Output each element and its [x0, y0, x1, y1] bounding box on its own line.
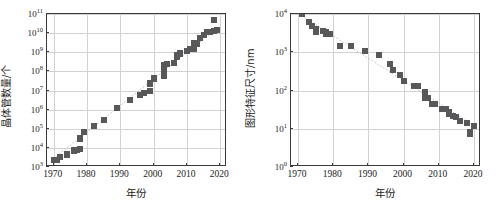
y-tick-label: 101: [259, 122, 287, 134]
gridline-vertical: [87, 14, 88, 165]
data-point: [141, 90, 147, 96]
y-tick-mark: [46, 147, 49, 148]
y-tick-mark: [46, 128, 49, 129]
gridline-vertical: [298, 14, 299, 165]
data-point: [299, 13, 305, 17]
y-tick-mark: [46, 13, 49, 14]
data-point: [327, 31, 333, 37]
data-point: [337, 43, 343, 49]
y-tick-mark: [290, 166, 293, 167]
x-tick-mark: [153, 163, 154, 166]
data-point: [161, 68, 167, 74]
gridline-horizontal: [291, 91, 479, 92]
data-point: [171, 60, 177, 66]
data-point: [114, 105, 120, 111]
gridline-horizontal: [47, 52, 225, 53]
y-tick-mark: [290, 51, 293, 52]
data-point: [362, 48, 368, 54]
trendline: [291, 14, 479, 165]
gridline-horizontal: [291, 14, 479, 15]
x-tick-mark: [438, 163, 439, 166]
data-point: [348, 43, 354, 49]
plot-area-transistor-count: [46, 13, 226, 166]
y-tick-label: 109: [15, 45, 43, 57]
chart-panel-feature-size: 197019801990200020102020100101102103104 …: [249, 0, 499, 208]
gridline-vertical: [154, 14, 155, 165]
dual-chart-figure: 1970198019902000201020201031041051061071…: [0, 0, 499, 208]
data-point: [77, 135, 83, 141]
data-point: [77, 146, 83, 152]
x-tick-mark: [53, 163, 54, 166]
gridline-horizontal: [47, 91, 225, 92]
y-axis-title-left: 晶体管数量/个: [0, 64, 13, 127]
data-point: [467, 129, 473, 135]
x-tick-mark: [403, 163, 404, 166]
y-tick-mark: [46, 109, 49, 110]
x-tick-mark: [119, 163, 120, 166]
x-tick-mark: [367, 163, 368, 166]
y-tick-mark: [290, 90, 293, 91]
data-point: [191, 46, 197, 52]
gridline-vertical: [120, 14, 121, 165]
y-tick-mark: [290, 13, 293, 14]
x-tick-label: 1980: [312, 169, 352, 179]
gridline-horizontal: [47, 71, 225, 72]
x-tick-label: 2010: [418, 169, 458, 179]
data-point: [457, 118, 463, 124]
gridline-horizontal: [47, 14, 225, 15]
data-point: [211, 17, 217, 23]
y-tick-label: 1010: [15, 26, 43, 38]
y-tick-label: 104: [15, 141, 43, 153]
chart-panel-transistor-count: 1970198019902000201020201031041051061071…: [0, 0, 249, 208]
y-tick-label: 106: [15, 103, 43, 115]
y-tick-label: 108: [15, 64, 43, 76]
data-point: [101, 117, 107, 123]
x-tick-mark: [297, 163, 298, 166]
data-point: [390, 67, 396, 73]
x-tick-mark: [219, 163, 220, 166]
gridline-vertical: [474, 14, 475, 165]
data-point: [177, 50, 183, 56]
y-tick-mark: [46, 51, 49, 52]
data-point: [57, 154, 63, 160]
data-point: [401, 78, 407, 84]
gridline-horizontal: [291, 52, 479, 53]
y-tick-label: 104: [259, 7, 287, 19]
data-point: [81, 129, 87, 135]
y-tick-label: 103: [15, 160, 43, 172]
data-point: [415, 83, 421, 89]
y-tick-label: 103: [259, 45, 287, 57]
data-point: [161, 73, 167, 79]
x-tick-label: 1990: [347, 169, 387, 179]
data-point: [376, 52, 382, 58]
x-axis-title-right: 年份: [290, 185, 480, 200]
data-point: [127, 97, 133, 103]
gridline-vertical: [404, 14, 405, 165]
x-tick-mark: [86, 163, 87, 166]
y-tick-mark: [46, 70, 49, 71]
data-point: [464, 120, 470, 126]
data-point: [91, 123, 97, 129]
gridline-vertical: [333, 14, 334, 165]
y-tick-mark: [46, 32, 49, 33]
gridline-vertical: [220, 14, 221, 165]
data-point: [64, 151, 70, 157]
data-point: [432, 101, 438, 107]
data-point: [147, 88, 153, 94]
y-tick-label: 102: [259, 84, 287, 96]
gridline-vertical: [439, 14, 440, 165]
x-tick-label: 2020: [199, 169, 239, 179]
data-point: [425, 95, 431, 101]
y-tick-label: 1011: [15, 7, 43, 19]
y-axis-title-right: 图形特征尺寸/nm: [242, 48, 257, 127]
y-tick-label: 100: [259, 160, 287, 172]
x-tick-label: 2000: [383, 169, 423, 179]
data-point: [151, 75, 157, 81]
data-point: [214, 27, 220, 33]
y-tick-label: 105: [15, 122, 43, 134]
x-tick-mark: [332, 163, 333, 166]
y-tick-mark: [46, 90, 49, 91]
data-point: [313, 29, 319, 35]
gridline-horizontal: [47, 33, 225, 34]
gridline-vertical: [54, 14, 55, 165]
